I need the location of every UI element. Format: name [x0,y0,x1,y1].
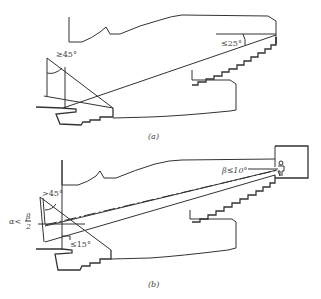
angle-label-left: ≥45° [56,50,77,59]
figure-b: β≤10° >45° α< β 2 ≤15° (b) [9,146,308,289]
caption-b: (b) [148,280,159,289]
caption-a: (a) [148,132,159,141]
angle-label-alpha-prefix: α< [9,217,21,226]
angle-label-bottom: ≤15° [70,240,91,249]
angle-label-alpha-num: β [25,212,31,221]
angle-label-top-left: >45° [42,189,63,198]
projectionist-icon [278,161,284,176]
figure-a: ≤25° ≥45° (a) [36,15,276,141]
diagram-canvas: ≤25° ≥45° (a) β≤10° [0,0,321,299]
angle-label-beta: β≤10° [221,166,248,175]
angle-label-right: ≤25° [221,39,242,48]
angle-label-alpha-den: 2 [25,222,31,231]
